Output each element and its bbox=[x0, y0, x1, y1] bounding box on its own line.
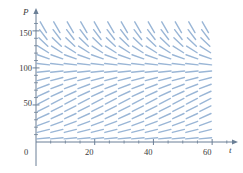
slope-segment bbox=[200, 113, 211, 118]
slope-segment bbox=[146, 46, 156, 53]
slope-segment bbox=[159, 55, 171, 59]
slope-segment bbox=[38, 106, 49, 112]
slope-segment bbox=[200, 46, 210, 53]
slope-segment bbox=[78, 106, 89, 112]
slope-segment bbox=[64, 129, 76, 132]
slope-segment bbox=[38, 84, 50, 88]
slope-segment bbox=[78, 129, 90, 132]
slope-segment bbox=[146, 121, 158, 125]
slope-segment bbox=[92, 113, 103, 118]
slope-segment bbox=[146, 98, 157, 104]
slope-segment bbox=[173, 106, 184, 112]
slope-segment bbox=[145, 138, 157, 139]
slope-segment bbox=[105, 91, 116, 96]
slope-segment bbox=[51, 84, 63, 88]
slope-segment bbox=[78, 64, 90, 65]
slope-segment bbox=[105, 113, 116, 118]
y-axis-label: P bbox=[23, 7, 29, 17]
slope-segment bbox=[172, 129, 184, 132]
slope-segment bbox=[65, 46, 75, 53]
slope-segment bbox=[64, 71, 76, 72]
slope-segment bbox=[105, 106, 116, 112]
slope-segment bbox=[105, 98, 116, 104]
slope-segment bbox=[200, 98, 211, 104]
slope-segment bbox=[145, 129, 157, 132]
slope-segment bbox=[132, 77, 144, 80]
slope-segment bbox=[119, 98, 130, 104]
slope-segment bbox=[200, 91, 211, 96]
slope-segment bbox=[92, 121, 104, 125]
slope-segment bbox=[105, 55, 117, 59]
slope-segment bbox=[65, 106, 76, 112]
slope-segment bbox=[186, 64, 198, 65]
slope-segment bbox=[173, 84, 185, 88]
slope-segment bbox=[78, 77, 90, 80]
slope-segment bbox=[105, 129, 117, 132]
slope-segment bbox=[146, 106, 157, 112]
slope-segment bbox=[64, 64, 76, 65]
slope-segment bbox=[78, 113, 89, 118]
slope-segment bbox=[132, 129, 144, 132]
slope-segment bbox=[186, 113, 197, 118]
slope-segment bbox=[186, 138, 198, 139]
slope-segment bbox=[186, 91, 197, 96]
slope-segment bbox=[146, 91, 157, 96]
slope-segment bbox=[159, 138, 171, 139]
slope-segment bbox=[118, 138, 130, 139]
slope-segment bbox=[159, 77, 171, 80]
slope-segment bbox=[51, 138, 63, 139]
slope-segment bbox=[64, 55, 76, 59]
slope-segment bbox=[159, 98, 170, 104]
slope-segment bbox=[159, 121, 171, 125]
y-tick-label-50: 50 bbox=[11, 98, 32, 108]
slope-segment bbox=[186, 106, 197, 112]
slope-segment bbox=[159, 84, 171, 88]
slope-segment bbox=[186, 84, 198, 88]
slope-segment bbox=[106, 46, 116, 53]
slope-segment bbox=[37, 71, 49, 72]
slope-segment bbox=[37, 129, 49, 132]
slope-segment bbox=[92, 55, 104, 59]
direction-field-figure: P t 150 100 50 0 20 40 60 bbox=[0, 0, 243, 173]
slope-segment bbox=[92, 84, 104, 88]
slope-segment bbox=[78, 55, 90, 59]
slope-segment bbox=[132, 91, 143, 96]
slope-segment bbox=[119, 46, 129, 53]
slope-segment bbox=[159, 64, 171, 65]
slope-segment bbox=[119, 106, 130, 112]
slope-segment bbox=[118, 77, 130, 80]
slope-segment bbox=[78, 91, 89, 96]
slope-segment bbox=[173, 121, 185, 125]
slope-segment bbox=[92, 98, 103, 104]
slope-segment bbox=[105, 84, 117, 88]
slope-segment bbox=[118, 71, 130, 72]
slope-segment bbox=[92, 46, 102, 53]
slope-segment bbox=[64, 77, 76, 80]
slope-segment bbox=[105, 138, 117, 139]
y-tick-label-150: 150 bbox=[11, 28, 32, 38]
slope-segment bbox=[159, 106, 170, 112]
slope-segment bbox=[64, 138, 76, 139]
slope-segment bbox=[65, 98, 76, 104]
slope-segment bbox=[38, 113, 49, 118]
slope-segment bbox=[200, 84, 212, 88]
slope-segment bbox=[186, 121, 198, 125]
slope-segment bbox=[105, 121, 117, 125]
x-axis-label: t bbox=[229, 145, 232, 155]
slope-segment bbox=[65, 91, 76, 96]
slope-segment bbox=[78, 138, 90, 139]
x-tick-label-20: 20 bbox=[85, 147, 94, 157]
slope-segment bbox=[38, 98, 49, 104]
slope-segment bbox=[51, 71, 63, 72]
slope-segment bbox=[186, 71, 198, 72]
slope-segment bbox=[51, 77, 63, 80]
slope-segment bbox=[52, 46, 62, 53]
slope-segment bbox=[119, 91, 130, 96]
slope-segment bbox=[199, 64, 211, 65]
slope-segment bbox=[186, 98, 197, 104]
slope-segment bbox=[159, 113, 170, 118]
slope-segment bbox=[199, 129, 211, 132]
slope-segment bbox=[172, 77, 184, 80]
slope-segment bbox=[146, 113, 157, 118]
slope-segment bbox=[51, 91, 62, 96]
